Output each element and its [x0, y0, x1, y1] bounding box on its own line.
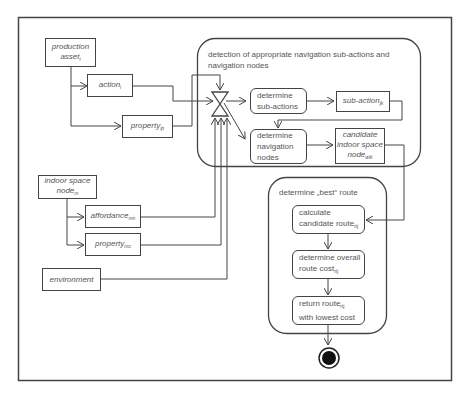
- action-subscript: i: [120, 84, 121, 90]
- determine-navigation-nodes-line2: navigation: [257, 141, 293, 152]
- determine-sub-actions-line1: determine: [257, 90, 293, 101]
- overall-cost-label: route cost: [299, 264, 334, 273]
- determine-navigation-nodes-line1: determine: [257, 130, 293, 141]
- join-node-hourglass: [212, 92, 228, 116]
- best-route-group-title: determine „best“ route: [279, 187, 379, 198]
- production-asset-label: production asset: [52, 42, 89, 61]
- sub-action-subscript: jk: [380, 100, 384, 106]
- action-label: action: [99, 80, 120, 89]
- property-asset-label: property: [131, 121, 160, 130]
- affordance-subscript: mn: [128, 215, 135, 221]
- activity-final-node-inner: [322, 351, 336, 365]
- edge-node-affordance: [67, 199, 84, 217]
- overall-cost-subscript: rij: [334, 268, 338, 274]
- candidate-node-subscript: wlk: [365, 154, 372, 160]
- environment-label: environment: [49, 275, 93, 285]
- indoor-space-node-line1: indoor space: [45, 176, 91, 186]
- determine-navigation-nodes-action[interactable]: determine navigation nodes: [250, 129, 307, 164]
- calculate-subscript: rij: [354, 223, 358, 229]
- overall-cost-line1: determine overall: [299, 252, 360, 263]
- candidate-node-label: node: [347, 150, 365, 159]
- affordance-box[interactable]: affordancemn: [85, 205, 141, 228]
- candidate-node-line1: candidate: [343, 130, 378, 140]
- return-route-line2: with lowest cost: [299, 312, 355, 323]
- action-box[interactable]: actioni: [87, 74, 133, 97]
- property-node-subscript: mc: [124, 243, 131, 249]
- return-route-subscript: rij: [340, 303, 344, 309]
- indoor-space-node-box[interactable]: indoor space nodem: [38, 175, 97, 199]
- affordance-label: affordance: [91, 211, 129, 220]
- candidate-node-line2: indoor space: [337, 140, 383, 150]
- determine-sub-actions-line2: sub-actions: [257, 101, 298, 112]
- property-node-box[interactable]: propertymc: [85, 233, 141, 256]
- property-asset-subscript: ip: [160, 125, 164, 131]
- indoor-space-node-label: node: [57, 186, 75, 195]
- return-route-action[interactable]: return routerij with lowest cost: [292, 296, 365, 325]
- edge-node-property: [67, 217, 84, 245]
- production-asset-box[interactable]: production asseti: [45, 38, 96, 67]
- indoor-space-node-subscript: m: [74, 190, 78, 196]
- calculate-label: candidate route: [299, 219, 354, 228]
- calculate-line1: calculate: [299, 207, 331, 218]
- determine-overall-cost-action[interactable]: determine overall route costrij: [292, 250, 365, 279]
- calculate-candidate-route-action[interactable]: calculate candidate routerij: [292, 205, 365, 234]
- property-asset-box[interactable]: propertyip: [122, 115, 173, 138]
- detection-group-title: detection of appropriate navigation sub-…: [208, 49, 398, 71]
- return-route-label: return route: [299, 299, 340, 308]
- determine-navigation-nodes-line3: nodes: [257, 152, 279, 163]
- candidate-node-box[interactable]: candidate indoor space nodewlk: [335, 128, 385, 164]
- edge-asset-action: [71, 67, 87, 86]
- production-asset-subscript: i: [80, 56, 81, 62]
- edge-action-join: [133, 86, 213, 101]
- property-node-label: property: [95, 239, 124, 248]
- determine-sub-actions-action[interactable]: determine sub-actions: [250, 88, 307, 114]
- sub-action-box[interactable]: sub-actionjk: [336, 91, 390, 112]
- environment-box[interactable]: environment: [42, 268, 101, 291]
- sub-action-label: sub-action: [343, 96, 380, 105]
